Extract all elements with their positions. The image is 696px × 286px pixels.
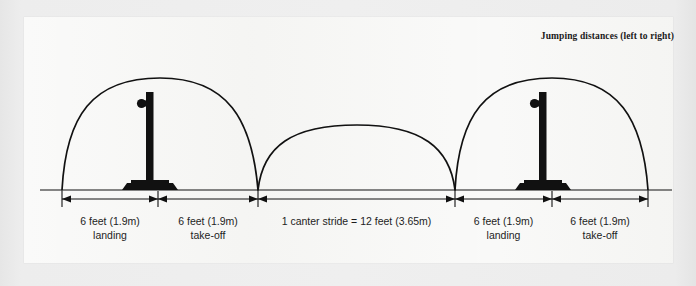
jump-right xyxy=(515,92,571,190)
jump-right-base-cap xyxy=(524,180,562,184)
segment-label-canter-stride: 1 canter stride = 12 feet (3.65m) xyxy=(258,214,455,228)
jump-left-cup-arm xyxy=(141,101,147,107)
segment-distance: 6 feet (1.9m) xyxy=(570,215,630,227)
jump-right-post xyxy=(539,92,547,185)
segment-label-takeoff-left: 6 feet (1.9m) take-off xyxy=(158,214,258,242)
jump-right-base xyxy=(515,183,571,190)
segment-label-landing-right: 6 feet (1.9m) landing xyxy=(455,214,552,242)
segment-distance: 6 feet (1.9m) xyxy=(178,215,238,227)
arrow-1-left xyxy=(149,196,158,203)
jump-right-cup-arm xyxy=(534,101,540,107)
segment-distance: 6 feet (1.9m) xyxy=(474,215,534,227)
figure-stage: Jumping distances (left to right) xyxy=(0,0,696,286)
arrow-2-left xyxy=(249,196,258,203)
segment-distance: 6 feet (1.9m) xyxy=(80,215,140,227)
arrow-start xyxy=(62,196,71,203)
arrow-3-left xyxy=(446,196,455,203)
segment-distance: 1 canter stride = 12 feet (3.65m) xyxy=(282,215,432,227)
arrow-end xyxy=(639,196,648,203)
arrow-4-right xyxy=(552,196,561,203)
jump-left-base-cap xyxy=(131,180,169,184)
arrow-2-right xyxy=(258,196,267,203)
segment-label-takeoff-right: 6 feet (1.9m) take-off xyxy=(552,214,648,242)
arrow-4-left xyxy=(543,196,552,203)
arc-canter-stride xyxy=(258,125,455,190)
arc-jump-right xyxy=(455,78,648,190)
arrow-1-right xyxy=(158,196,167,203)
jump-left xyxy=(122,92,178,190)
jump-distance-diagram xyxy=(0,0,696,286)
segment-phase: landing xyxy=(62,228,158,242)
jump-left-base xyxy=(122,183,178,190)
arc-jump-left xyxy=(62,78,258,190)
jump-left-post xyxy=(146,92,154,185)
segment-phase: landing xyxy=(455,228,552,242)
segment-phase: take-off xyxy=(552,228,648,242)
segment-label-landing-left: 6 feet (1.9m) landing xyxy=(62,214,158,242)
segment-phase: take-off xyxy=(158,228,258,242)
arrow-3-right xyxy=(455,196,464,203)
